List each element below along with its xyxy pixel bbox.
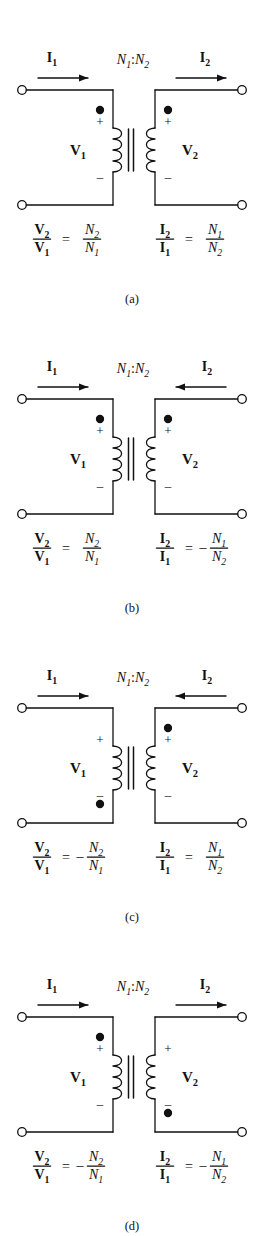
equation-current-equals: = <box>185 541 193 556</box>
equation-current-lhs-denominator: I1 <box>160 240 170 258</box>
secondary-coil <box>146 128 155 172</box>
primary-terminal-bottom <box>18 1128 27 1137</box>
equation-voltage-lhs: V2V1 <box>33 840 50 876</box>
current-arrow-i2-head <box>217 1002 226 1009</box>
equation-voltage-lhs-denominator: V1 <box>34 858 49 876</box>
equation-voltage: V2V1=–N2N1 <box>33 1149 104 1185</box>
equation-current-sign: – <box>199 540 208 555</box>
equation-voltage-lhs-denominator: V1 <box>34 549 49 567</box>
turns-ratio-text: N1:N2 <box>116 670 149 688</box>
equation-current-lhs-numerator: I2 <box>160 531 170 549</box>
equation-current-rhs-numerator: N1 <box>207 222 222 240</box>
equation-current-equals: = <box>185 1159 193 1174</box>
current-arrow-i1 <box>38 384 88 391</box>
turns-ratio-label: N1:N2 <box>116 52 149 70</box>
voltage-label-v1: V1 <box>70 1069 86 1088</box>
equation-voltage-equals: = <box>62 1159 70 1174</box>
panel-caption-d: (d) <box>0 1219 264 1234</box>
circuit-diagram-b: N1:N2I1I2+–+–V1V2V2V1=N2N1I2I1=–N1N2 <box>0 309 264 618</box>
panel-caption-b: (b) <box>0 601 264 616</box>
secondary-circuit <box>146 1013 246 1137</box>
equation-voltage-lhs: V2V1 <box>33 1149 50 1185</box>
secondary-coil-turns <box>146 746 155 790</box>
equation-current-equals: = <box>185 232 193 247</box>
equation-voltage-lhs-numerator: V2 <box>34 222 49 240</box>
current-arrow-i1-head <box>79 384 88 391</box>
polarity-dot-primary <box>97 416 104 423</box>
equation-current-rhs-denominator: N2 <box>207 240 222 258</box>
polarity-plus-secondary: + <box>164 1041 171 1056</box>
current-arrow-i1-head <box>79 75 88 82</box>
voltage-label-v2: V2 <box>182 142 198 161</box>
equation-voltage-rhs-numerator: N2 <box>84 222 99 240</box>
panel-caption-c: (c) <box>0 910 264 925</box>
current-arrow-i2 <box>176 693 226 700</box>
equation-voltage-lhs: V2V1 <box>33 531 50 567</box>
polarity-dot-primary <box>97 1034 104 1041</box>
current-label-i1: I1 <box>47 359 57 377</box>
equation-current-equals: = <box>185 850 193 865</box>
primary-terminal-bottom <box>18 819 27 828</box>
current-label-i2: I2 <box>200 977 210 995</box>
secondary-coil <box>146 746 155 790</box>
voltage-label-v2: V2 <box>182 451 198 470</box>
primary-terminal-bottom <box>18 201 27 210</box>
turns-ratio-text: N1:N2 <box>116 361 149 379</box>
equation-voltage-rhs: N2N1 <box>83 222 100 258</box>
current-arrow-i2 <box>176 75 226 82</box>
secondary-terminal-bottom <box>238 819 247 828</box>
secondary-terminal-bottom <box>238 510 247 519</box>
equation-voltage-rhs-numerator: N2 <box>88 840 103 858</box>
transformer-core <box>129 129 134 171</box>
polarity-plus-primary: + <box>96 114 103 129</box>
current-arrow-i1 <box>38 75 88 82</box>
transformer-core <box>129 438 134 480</box>
equation-voltage-lhs-numerator: V2 <box>34 840 49 858</box>
equation-voltage-lhs-numerator: V2 <box>34 1149 49 1167</box>
equation-voltage-equals: = <box>62 850 70 865</box>
current-arrow-i2-head <box>217 75 226 82</box>
current-arrow-i1 <box>38 1002 88 1009</box>
current-arrow-i2-head <box>176 384 185 391</box>
equation-current-lhs-denominator: I1 <box>160 1167 170 1185</box>
equation-current-lhs: I2I1 <box>156 531 173 567</box>
transformer-core <box>129 1056 134 1098</box>
equation-current-lhs: I2I1 <box>156 1149 173 1185</box>
secondary-circuit <box>146 395 246 519</box>
equation-voltage-rhs-denominator: N1 <box>84 549 99 567</box>
turns-ratio-text: N1:N2 <box>116 52 149 70</box>
secondary-circuit <box>146 704 246 828</box>
primary-terminal-top <box>18 704 27 713</box>
primary-terminal-top <box>18 395 27 404</box>
primary-coil-turns <box>113 128 122 172</box>
equation-voltage-sign: – <box>76 849 85 864</box>
current-arrow-i2 <box>176 1002 226 1009</box>
equation-current-rhs-denominator: N2 <box>207 858 222 876</box>
equation-voltage-lhs-numerator: V2 <box>34 531 49 549</box>
equation-current-rhs: N1N2 <box>210 531 227 567</box>
turns-ratio-text: N1:N2 <box>116 979 149 997</box>
equation-current-lhs: I2I1 <box>156 222 173 258</box>
secondary-coil-turns <box>146 128 155 172</box>
primary-coil <box>113 128 122 172</box>
circuit-diagram-c: N1:N2I1I2+–+–V1V2V2V1=–N2N1I2I1=N1N2 <box>0 618 264 927</box>
polarity-plus-secondary: + <box>164 114 171 129</box>
equation-current-rhs: N1N2 <box>210 1149 227 1185</box>
voltage-label-v1: V1 <box>70 142 86 161</box>
equation-current: I2I1=–N1N2 <box>156 531 227 567</box>
voltage-label-v1: V1 <box>70 760 86 779</box>
equation-current-rhs-numerator: N1 <box>207 840 222 858</box>
secondary-coil <box>146 437 155 481</box>
polarity-plus-primary: + <box>96 423 103 438</box>
equation-voltage-equals: = <box>62 232 70 247</box>
primary-coil <box>113 437 122 481</box>
voltage-label-v2: V2 <box>182 760 198 779</box>
polarity-plus-primary: + <box>96 1041 103 1056</box>
primary-coil-turns <box>113 1055 122 1099</box>
equation-current-rhs: N1N2 <box>206 222 223 258</box>
voltage-label-v1: V1 <box>70 451 86 470</box>
primary-coil-turns <box>113 746 122 790</box>
polarity-minus-secondary: – <box>164 1096 172 1111</box>
equation-voltage-rhs: N2N1 <box>87 840 104 876</box>
equation-current-rhs-numerator: N1 <box>211 531 226 549</box>
